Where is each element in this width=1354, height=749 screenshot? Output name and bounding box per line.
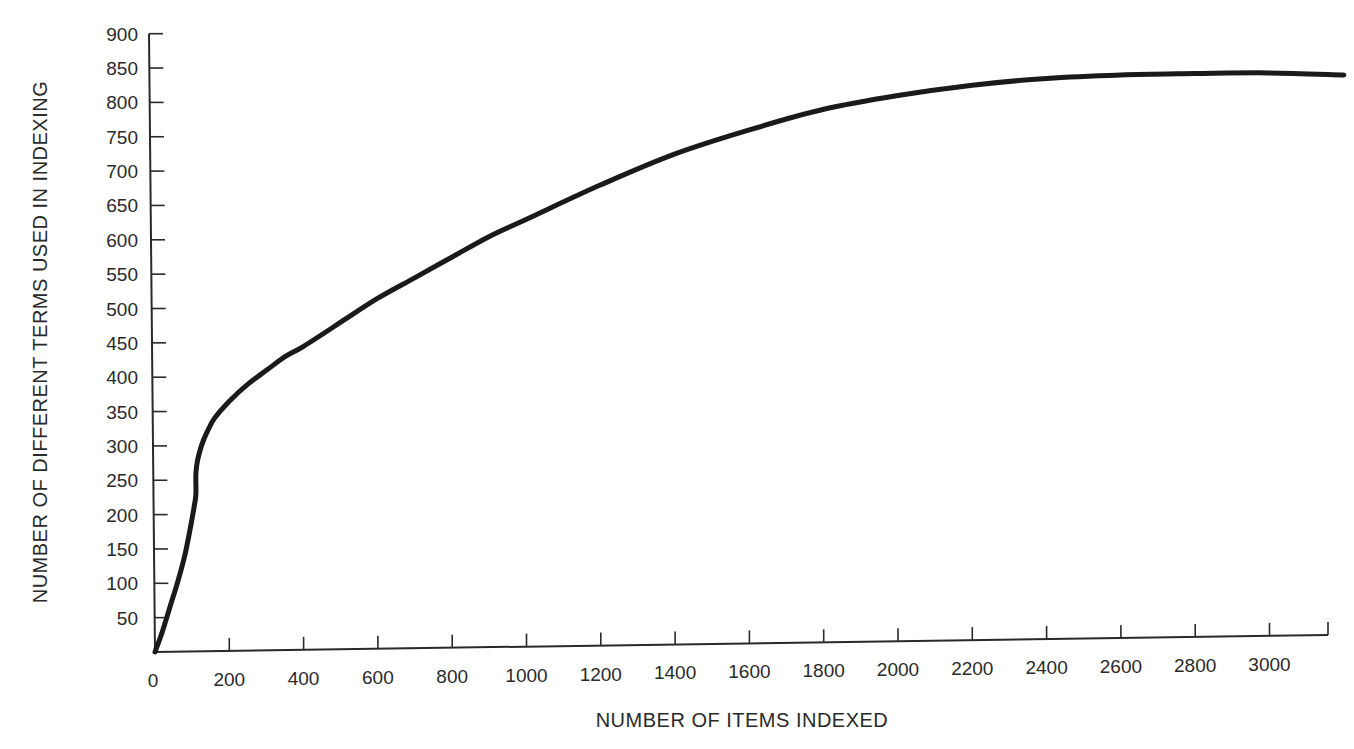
x-tick-label: 0 — [148, 670, 159, 691]
x-tick-label: 400 — [288, 668, 320, 689]
y-tick-label: 150 — [106, 539, 138, 560]
data-series — [155, 73, 1344, 652]
y-tick-label: 250 — [106, 470, 138, 491]
y-tick-label: 650 — [106, 195, 138, 216]
x-tick-label: 800 — [436, 666, 468, 687]
y-tick-label: 100 — [106, 573, 138, 594]
y-tick-label: 600 — [106, 230, 138, 251]
x-tick-label: 1400 — [654, 662, 696, 683]
x-tick-label: 2400 — [1025, 657, 1067, 678]
y-tick-label: 450 — [106, 333, 138, 354]
x-tick-label: 1800 — [803, 660, 845, 681]
y-tick-label: 500 — [106, 299, 138, 320]
series-line — [155, 73, 1344, 652]
y-tick-label: 750 — [106, 127, 138, 148]
y-tick-label: 300 — [106, 436, 138, 457]
y-tick-label: 200 — [106, 505, 138, 526]
line-chart: 5010015020025030035040045050055060065070… — [0, 0, 1354, 749]
y-axis: 5010015020025030035040045050055060065070… — [106, 24, 168, 652]
x-tick-label: 200 — [213, 669, 245, 690]
x-tick-label: 600 — [362, 667, 394, 688]
x-tick-label: 2200 — [951, 658, 993, 679]
x-tick-label: 3000 — [1248, 654, 1290, 675]
x-tick-label: 1200 — [580, 664, 622, 685]
x-tick-label: 1600 — [728, 661, 770, 682]
y-tick-label: 50 — [117, 608, 138, 629]
y-tick-label: 350 — [106, 402, 138, 423]
y-tick-label: 400 — [106, 367, 138, 388]
y-axis-title: NUMBER OF DIFFERENT TERMS USED IN INDEXI… — [29, 81, 51, 604]
x-axis: 0200400600800100012001400160018002000220… — [148, 622, 1328, 691]
y-tick-label: 700 — [106, 161, 138, 182]
y-tick-label: 900 — [106, 24, 138, 45]
x-axis-title: NUMBER OF ITEMS INDEXED — [596, 709, 889, 731]
x-tick-label: 1000 — [505, 665, 547, 686]
x-tick-label: 2600 — [1100, 656, 1142, 677]
y-tick-label: 850 — [106, 58, 138, 79]
y-tick-label: 800 — [106, 92, 138, 113]
y-tick-label: 550 — [106, 264, 138, 285]
x-tick-label: 2800 — [1174, 655, 1216, 676]
x-tick-label: 2000 — [877, 659, 919, 680]
